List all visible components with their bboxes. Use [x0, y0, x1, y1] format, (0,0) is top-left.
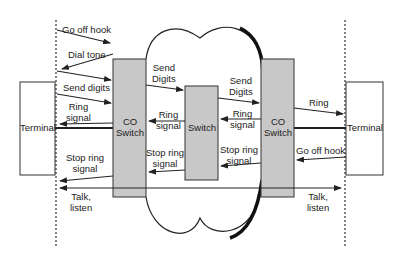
ring-signal-left-label: Ring signal — [66, 101, 91, 123]
right-terminal-label: Terminal — [346, 122, 384, 133]
ring-signal-mid-left-label: Ring signal — [156, 109, 181, 131]
center-switch-box — [185, 86, 218, 180]
send-digits-mid-right-label: Send Digits — [229, 75, 253, 97]
send-digits-left-label: Send digits — [63, 82, 110, 93]
center-switch-label: Switch — [185, 122, 219, 133]
send-digits-mid-left-label: Send Digits — [152, 62, 176, 84]
stop-ring-signal-mid-right-label: Stop ring signal — [220, 144, 258, 166]
left-co-switch-label: CO Switch — [113, 116, 147, 138]
left-terminal-label: Terminal — [20, 122, 56, 133]
ring-right-label: Ring — [309, 97, 329, 108]
go-off-hook-left-label: Go off hook — [62, 24, 111, 35]
talk-listen-right-label: Talk, listen — [307, 191, 329, 213]
right-co-switch-label: CO Switch — [261, 116, 295, 138]
stop-ring-signal-mid-left-label: Stop ring signal — [146, 147, 184, 169]
go-off-hook-right-label: Go off hook — [296, 145, 345, 156]
ring-signal-mid-right-label: Ring signal — [230, 108, 255, 130]
talk-listen-left-label: Talk, listen — [70, 191, 92, 213]
dial-tone-label: Dial tone — [68, 49, 106, 60]
stop-ring-signal-left-label: Stop ring signal — [66, 152, 104, 174]
